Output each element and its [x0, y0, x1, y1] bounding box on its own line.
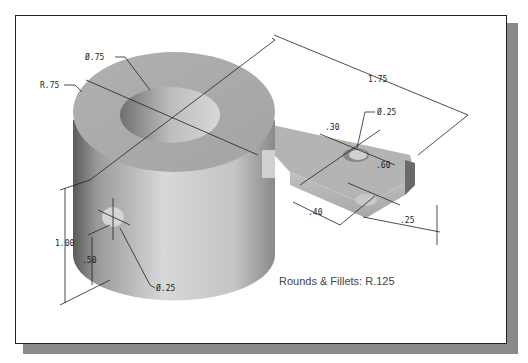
- dim-arm-hole-to-end: .40: [308, 208, 323, 217]
- dim-outer-radius: R.75: [40, 81, 59, 90]
- dim-height: 1.00: [55, 239, 74, 248]
- dim-side-hole-height: .50: [82, 256, 97, 265]
- dim-arm-hole-offset: .30: [325, 123, 340, 132]
- cylinder-body: [73, 52, 275, 300]
- dim-side-hole-diameter: Ø.25: [156, 283, 175, 293]
- dim-arm-width: .60: [376, 161, 391, 170]
- part-drawing: Ø.75 R.75 1.75 Ø.25 .30 .60 .40 .25 1.00…: [0, 0, 528, 363]
- rounds-fillets-note: Rounds & Fillets: R.125: [279, 275, 395, 287]
- dim-arm-hole-diameter: Ø.25: [377, 107, 396, 117]
- dim-overall-length: 1.75: [368, 75, 387, 84]
- dim-arm-thickness: .25: [400, 216, 415, 225]
- dim-hole-top-diameter: Ø.75: [85, 52, 104, 62]
